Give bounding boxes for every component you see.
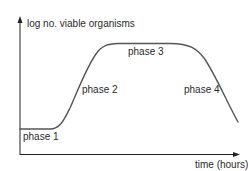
y-axis-arrow-icon <box>18 16 23 23</box>
growth-curve-diagram: log no. viable organisms phase 1 phase 2… <box>0 0 248 171</box>
x-axis-arrow-icon <box>233 152 240 157</box>
y-axis-label: log no. viable organisms <box>27 18 135 29</box>
x-axis-label: time (hours) <box>195 159 248 170</box>
phase-1-label: phase 1 <box>23 131 59 142</box>
phase-4-label: phase 4 <box>184 84 220 95</box>
phase-3-label: phase 3 <box>128 46 164 57</box>
phase-2-label: phase 2 <box>82 84 118 95</box>
